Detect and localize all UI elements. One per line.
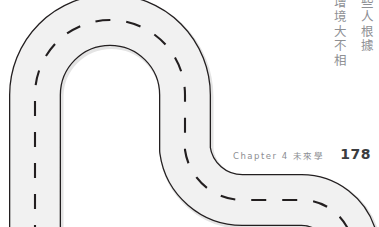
winding-road-illustration [0, 0, 379, 227]
vertical-text-column-left: 增境大不相 [332, 0, 347, 68]
vertical-text-block: 些人根據 增境大不相 [332, 0, 374, 68]
book-page: 些人根據 增境大不相 Chapter 4 未來學 178 [0, 0, 379, 227]
vertical-text-column-right: 些人根據 [358, 0, 373, 54]
page-footer: Chapter 4 未來學 178 [233, 146, 371, 162]
footer-chapter-label: Chapter 4 未來學 [233, 149, 324, 161]
footer-page-number: 178 [340, 146, 371, 162]
